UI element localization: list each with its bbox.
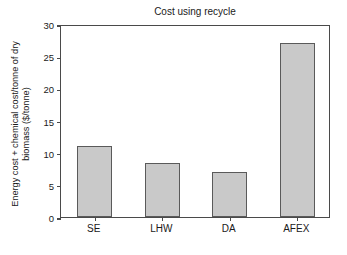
- y-axis-title-line-2: biomass ($/tonne): [21, 24, 32, 224]
- y-tick-label: 30: [43, 20, 54, 32]
- x-tick-mark: [230, 217, 231, 221]
- x-tick-mark: [297, 217, 298, 221]
- y-tick-label: 20: [43, 84, 54, 96]
- x-tick-mark: [162, 217, 163, 221]
- x-tick-label: DA: [222, 222, 236, 235]
- y-tick-label: 10: [43, 149, 54, 161]
- bar-lhw: [145, 163, 180, 217]
- bars-layer: [61, 26, 329, 217]
- x-tick-label: SE: [87, 222, 100, 235]
- bar-chart: Cost using recycle Energy cost + chemica…: [0, 0, 347, 255]
- plot-area: 051015202530: [60, 25, 330, 218]
- bar-afex: [280, 43, 315, 217]
- x-tick-label: AFEX: [283, 222, 309, 235]
- bar-se: [77, 146, 112, 217]
- y-tick-label: 15: [43, 117, 54, 129]
- x-tick-label: LHW: [150, 222, 172, 235]
- y-axis-title-line-1: Energy cost + chemical cost/tonne of dry: [10, 24, 21, 224]
- x-tick-mark: [95, 217, 96, 221]
- bar-da: [212, 172, 247, 217]
- y-tick-mark: [57, 218, 61, 219]
- y-axis-title: Energy cost + chemical cost/tonne of dry…: [10, 24, 32, 224]
- chart-title: Cost using recycle: [60, 6, 330, 17]
- y-tick-label: 5: [49, 181, 54, 193]
- y-tick-label: 0: [49, 213, 54, 225]
- y-tick-label: 25: [43, 52, 54, 64]
